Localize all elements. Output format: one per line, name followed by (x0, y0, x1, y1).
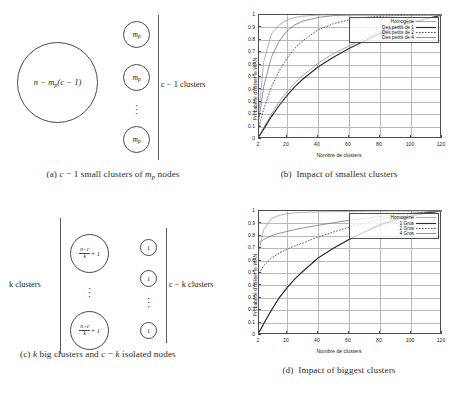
ellipsis-vertical-c-left: ··· (70, 286, 109, 298)
chart-xtick-label: 60 (338, 337, 358, 343)
chart-b-xlabel: Nombre de clusters (226, 152, 452, 158)
chart-xtick-label: 100 (400, 337, 420, 343)
panel-d-chart: Probabilité d'utiliser le WAN Nombre de … (226, 196, 452, 393)
chart-xtick-mark (348, 331, 349, 334)
chart-ytick-label: 0.5 (233, 269, 255, 275)
chart-ytick-mark (258, 309, 261, 310)
chart-xtick-label: 120 (431, 337, 451, 343)
chart-ytick-mark (258, 235, 261, 236)
chart-legend-key (416, 25, 436, 30)
chart-ytick-mark (258, 272, 261, 273)
chart-xtick-label: 40 (307, 141, 327, 147)
chart-ytick-label: 0.6 (233, 257, 255, 263)
chart-ytick-label: 0.7 (233, 244, 255, 250)
bracket-label-c-left: k clusters (9, 280, 41, 289)
diagram-c-canvas: k clusters n−c k + 1 ··· n−c k + 1 1 (0, 206, 226, 356)
bracket-label-c-right: c − k clusters (169, 280, 214, 289)
chart-ytick-mark (258, 222, 261, 223)
chart-xtick-label: 100 (400, 141, 420, 147)
chart-xtick-mark (410, 331, 411, 334)
chart-xtick-label: 120 (431, 141, 451, 147)
chart-xtick-mark (441, 135, 442, 138)
chart-ytick-label: 0.7 (233, 48, 255, 54)
big-cluster-circle-c-1: n−c k + 1 (70, 234, 109, 273)
chart-ytick-label: 0.5 (233, 73, 255, 79)
chart-xtick-mark (317, 135, 318, 138)
chart-ytick-mark (258, 126, 261, 127)
chart-ytick-label: 1 (233, 207, 255, 213)
caption-a: (a) c − 1 small clusters of mp nodes (0, 168, 226, 181)
chart-xtick-mark (441, 331, 442, 334)
chart-legend-key (416, 221, 436, 226)
small-cluster-label: mp (132, 30, 140, 39)
isolated-node-label: 1 (147, 244, 150, 251)
chart-legend-label: Des petits de 4 (382, 35, 414, 40)
chart-xtick-mark (410, 135, 411, 138)
chart-xtick-label: 2 (248, 337, 268, 343)
chart-ytick-mark (258, 26, 261, 27)
chart-xtick-label: 40 (307, 337, 327, 343)
panel-b-chart: Probabilité d'utiliser le WAN Nombre de … (226, 0, 452, 196)
chart-ytick-mark (258, 88, 261, 89)
big-cluster-circle-c-2: n−c k + 1 (70, 311, 109, 350)
chart-ytick-mark (258, 101, 261, 102)
big-cluster-formula-c: n−c k + 1 (79, 324, 100, 336)
chart-ytick-mark (258, 284, 261, 285)
chart-ytick-mark (258, 138, 261, 139)
isolated-node-circle-c-1: 1 (140, 239, 157, 256)
bracket-label-a: c − 1 clusters (161, 80, 206, 89)
chart-ytick-label: 0.2 (233, 110, 255, 116)
chart-xtick-label: 80 (369, 141, 389, 147)
caption-b: (b) Impact of smallest clusters (226, 168, 452, 180)
chart-ytick-mark (258, 64, 261, 65)
caption-c: (c) k big clusters and c − k isolated no… (20, 348, 210, 360)
chart-ytick-label: 0.3 (233, 98, 255, 104)
chart-legend-label: 2 Gros (400, 226, 414, 231)
small-cluster-circle-a-2: mp (123, 64, 150, 91)
chart-xtick-mark (258, 331, 259, 334)
chart-ytick-mark (258, 297, 261, 298)
small-cluster-circle-a-3: mp (123, 126, 150, 153)
chart-ytick-mark (258, 260, 261, 261)
chart-legend-label: 1 Gros (400, 221, 414, 226)
diagram-a-canvas: n − mp(c − 1) mp mp ··· mp c − 1 cluster… (0, 4, 226, 164)
chart-ytick-mark (258, 210, 261, 211)
chart-legend-label: Homogène (391, 19, 414, 24)
chart-ytick-mark (258, 334, 261, 335)
chart-legend-key (416, 231, 436, 236)
chart-ytick-label: 0.9 (233, 220, 255, 226)
chart-legend-key (416, 215, 436, 220)
chart-ytick-mark (258, 39, 261, 40)
chart-xtick-mark (348, 135, 349, 138)
chart-legend-item: Des petits de 4 (352, 35, 436, 40)
chart-ytick-label: 1 (233, 11, 255, 17)
chart-ytick-label: 0.1 (233, 123, 255, 129)
chart-xtick-label: 2 (248, 141, 268, 147)
bracket-line-a (158, 15, 159, 160)
chart-legend-label: Des petits de 1 (382, 25, 414, 30)
chart-ytick-label: 0.2 (233, 306, 255, 312)
ellipsis-vertical-a: ··· (123, 103, 150, 115)
chart-legend-key (416, 19, 436, 24)
small-cluster-label: mp (132, 73, 140, 82)
chart-xtick-mark (379, 135, 380, 138)
chart-ytick-label: 0.8 (233, 232, 255, 238)
chart-ytick-mark (258, 247, 261, 248)
small-cluster-circle-a-1: mp (123, 21, 150, 48)
chart-xtick-mark (286, 331, 287, 334)
panel-c-diagram: k clusters n−c k + 1 ··· n−c k + 1 1 (0, 196, 226, 393)
chart-ytick-label: 0.6 (233, 61, 255, 67)
chart-d-plot: Probabilité d'utiliser le WAN Nombre de … (226, 204, 452, 366)
chart-b-plot: Probabilité d'utiliser le WAN Nombre de … (226, 8, 452, 170)
chart-xtick-mark (258, 135, 259, 138)
chart-xtick-label: 80 (369, 337, 389, 343)
chart-legend-key (416, 226, 436, 231)
chart-ytick-mark (258, 76, 261, 77)
small-cluster-label: mp (132, 135, 140, 144)
chart-d-xlabel: Nombre de clusters (226, 348, 452, 354)
chart-ytick-label: 0.8 (233, 36, 255, 42)
isolated-node-circle-c-3: 1 (140, 322, 157, 339)
chart-legend-key (416, 35, 436, 40)
chart-xtick-label: 20 (276, 337, 296, 343)
ellipsis-vertical-c-right: ··· (140, 296, 157, 308)
